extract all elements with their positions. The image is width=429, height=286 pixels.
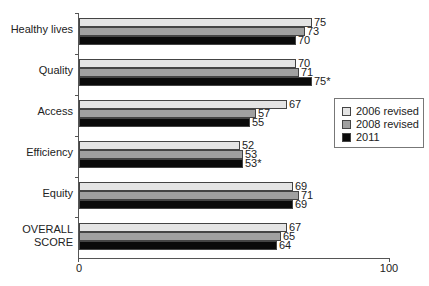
- x-axis: [78, 258, 389, 259]
- y-tick: [75, 54, 79, 55]
- y-tick: [75, 217, 79, 218]
- bar-healthy-lives-2006: [79, 18, 312, 27]
- bar-quality-2006: [79, 59, 296, 68]
- bar-healthy-lives-2008: [79, 27, 305, 36]
- legend-item-2011: 2011: [342, 131, 380, 143]
- bar-value-label: 70: [298, 35, 310, 46]
- bar-value-label: 69: [295, 199, 307, 210]
- bar-equity-2008: [79, 191, 299, 200]
- bar-access-2011: [79, 118, 250, 127]
- bar-value-label: 55: [252, 117, 264, 128]
- bar-overall-score-2006: [79, 223, 287, 232]
- bar-equity-2011: [79, 200, 293, 209]
- category-label-access: Access: [38, 105, 73, 117]
- legend-swatch-2008: [342, 120, 351, 129]
- category-label-overall-line2: SCORE: [34, 236, 73, 248]
- bar-overall-score-2008: [79, 232, 281, 241]
- bar-access-2008: [79, 109, 256, 118]
- legend-label-2011: 2011: [356, 131, 380, 143]
- legend-label-2006: 2006 revised: [356, 105, 419, 117]
- horizontal-bar-chart: Healthy lives Quality Access Efficiency …: [0, 0, 429, 286]
- y-tick: [75, 136, 79, 137]
- legend-item-2006: 2006 revised: [342, 105, 419, 117]
- y-tick: [75, 177, 79, 178]
- category-label-healthy-lives: Healthy lives: [11, 23, 73, 35]
- bar-quality-2011: [79, 77, 312, 86]
- legend-item-2008: 2008 revised: [342, 118, 419, 130]
- bar-efficiency-2006: [79, 141, 240, 150]
- bar-efficiency-2011: [79, 159, 243, 168]
- bar-efficiency-2008: [79, 150, 243, 159]
- bar-equity-2006: [79, 182, 293, 191]
- legend-label-2008: 2008 revised: [356, 118, 419, 130]
- bar-value-label: 64: [279, 240, 291, 251]
- legend-swatch-2006: [342, 107, 351, 116]
- bar-healthy-lives-2011: [79, 36, 296, 45]
- category-label-efficiency: Efficiency: [26, 146, 73, 158]
- bar-value-label: 53*: [245, 158, 262, 169]
- y-tick: [75, 13, 79, 14]
- category-label-equity: Equity: [42, 187, 73, 199]
- legend-swatch-2011: [342, 133, 351, 142]
- category-label-overall-line1: OVERALL: [22, 223, 73, 235]
- bar-overall-score-2011: [79, 241, 277, 250]
- y-tick: [75, 95, 79, 96]
- x-tick-label-100: 100: [380, 262, 398, 274]
- bar-value-label: 75*: [314, 76, 331, 87]
- legend: 2006 revised 2008 revised 2011: [334, 98, 424, 148]
- bar-access-2006: [79, 100, 287, 109]
- category-label-quality: Quality: [39, 64, 73, 76]
- x-tick-label-0: 0: [76, 262, 82, 274]
- bar-value-label: 67: [289, 99, 301, 110]
- bar-quality-2008: [79, 68, 299, 77]
